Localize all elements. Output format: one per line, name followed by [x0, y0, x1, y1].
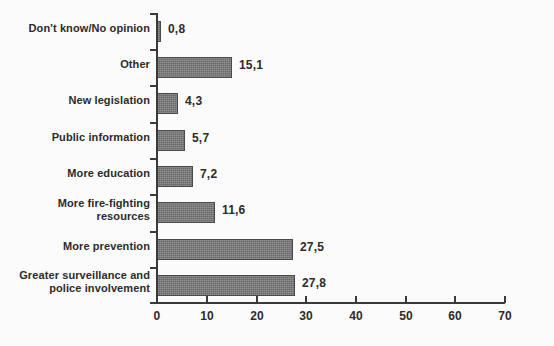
y-axis-tick — [150, 122, 157, 124]
y-axis-tick — [150, 267, 157, 269]
bar-value-5: 11,6 — [222, 203, 246, 217]
category-label-6: More prevention — [63, 240, 150, 253]
x-axis-tick — [156, 296, 158, 303]
y-axis-tick — [150, 13, 157, 15]
x-axis-line — [156, 302, 505, 304]
x-axis-tick — [504, 296, 506, 303]
bar-value-6: 27,5 — [300, 240, 324, 254]
bar-value-0: 0,8 — [168, 22, 185, 36]
bar-value-4: 7,2 — [200, 167, 217, 181]
category-label-5: More fire-fighting resources — [58, 197, 150, 223]
bar-chart: Don't know/No opinion Other New legislat… — [0, 0, 554, 346]
bar-5 — [157, 202, 215, 223]
category-label-2: New legislation — [68, 94, 150, 107]
bar-7 — [157, 275, 295, 296]
category-label-0: Don't know/No opinion — [29, 22, 150, 35]
category-label-1: Other — [120, 58, 150, 71]
y-axis-tick — [150, 85, 157, 87]
bar-2 — [157, 93, 178, 114]
x-axis-tick — [405, 296, 407, 303]
y-axis-tick — [150, 194, 157, 196]
y-axis-tick — [150, 158, 157, 160]
bar-value-1: 15,1 — [239, 58, 263, 72]
category-label-4: More education — [67, 167, 150, 180]
x-axis-tick-label-7: 70 — [475, 309, 535, 323]
bar-3 — [157, 130, 185, 151]
bar-value-2: 4,3 — [185, 94, 202, 108]
category-label-3: Public information — [52, 131, 150, 144]
x-axis-tick — [206, 296, 208, 303]
x-axis-tick — [355, 296, 357, 303]
y-axis-tick — [150, 49, 157, 51]
x-axis-tick — [454, 296, 456, 303]
x-axis-tick — [305, 296, 307, 303]
bar-6 — [157, 239, 293, 260]
bar-value-7: 27,8 — [302, 276, 326, 290]
category-label-7: Greater surveillance and police involvem… — [19, 269, 150, 295]
y-axis-tick — [150, 231, 157, 233]
bar-1 — [157, 57, 232, 78]
bar-4 — [157, 166, 193, 187]
bar-value-3: 5,7 — [192, 131, 209, 145]
x-axis-tick — [256, 296, 258, 303]
